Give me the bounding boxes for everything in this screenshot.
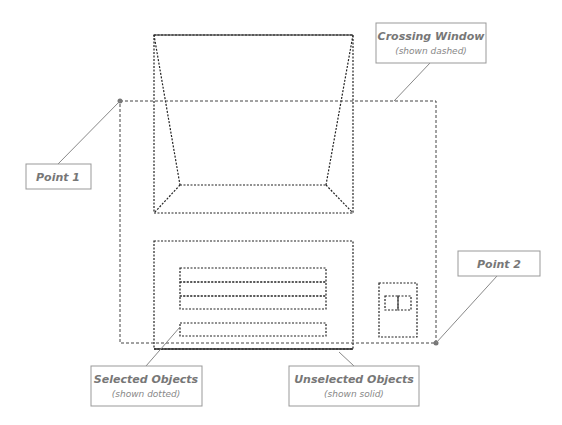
computer-case-object [154, 241, 353, 349]
callout-point2: Point 2 [458, 251, 540, 276]
callout-point1: Point 1 [26, 164, 91, 189]
callout-crossing-window: Crossing Window (shown dashed) [376, 23, 486, 63]
callout-selected-objects: Selected Objects (shown dotted) [91, 366, 202, 406]
small-device-object [379, 283, 417, 337]
callout-point2-title: Point 2 [477, 258, 521, 271]
leader-lines [58, 63, 497, 366]
callout-unselected-objects-title: Unselected Objects [294, 373, 414, 386]
diagram-canvas: Crossing Window (shown dashed) Point 1 P… [0, 0, 562, 425]
callout-point1-title: Point 1 [36, 171, 80, 184]
callout-crossing-window-subtitle: (shown dashed) [395, 46, 467, 56]
monitor-object [154, 35, 353, 213]
crossing-window [120, 101, 436, 343]
callout-unselected-objects-subtitle: (shown solid) [324, 389, 384, 399]
callout-unselected-objects: Unselected Objects (shown solid) [289, 366, 419, 406]
callout-selected-objects-subtitle: (shown dotted) [112, 389, 180, 399]
callout-selected-objects-title: Selected Objects [94, 373, 199, 386]
callout-crossing-window-title: Crossing Window [378, 30, 486, 43]
